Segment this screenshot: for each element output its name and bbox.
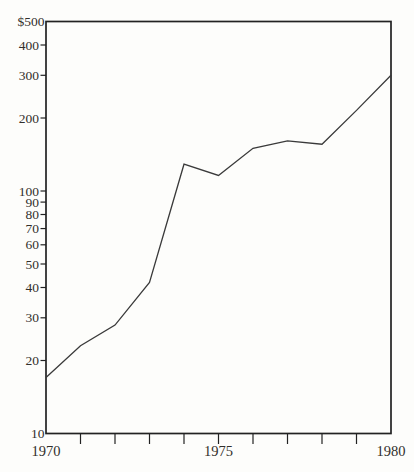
y-axis-tick-label: 50 (26, 257, 40, 272)
y-axis-tick-label: $500 (18, 14, 45, 29)
y-axis-tick-label: 40 (26, 280, 40, 295)
log-scale-line-chart-figure: $500400300200100908070605040302010197019… (0, 0, 414, 472)
x-axis-tick-label: 1975 (204, 443, 233, 459)
x-axis-tick-label: 1980 (377, 443, 406, 459)
y-axis-tick-label: 200 (19, 111, 40, 126)
y-axis-tick-label: 400 (19, 38, 40, 53)
x-axis-tick-label: 1970 (32, 443, 61, 459)
y-axis-tick-label: 80 (26, 207, 40, 222)
y-axis-tick-label: 20 (26, 353, 40, 368)
y-axis-tick-label: 300 (19, 68, 40, 83)
line-chart-canvas: $500400300200100908070605040302010197019… (0, 0, 414, 472)
y-axis-tick-label: 10 (31, 426, 45, 441)
y-axis-tick-label: 70 (26, 221, 40, 236)
figure-background (0, 0, 414, 472)
y-axis-tick-label: 30 (26, 310, 40, 325)
y-axis-tick-label: 60 (26, 237, 40, 252)
